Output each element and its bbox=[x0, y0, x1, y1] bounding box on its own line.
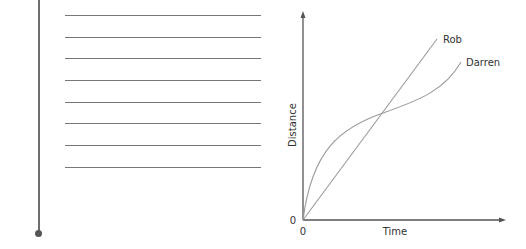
y-axis-arrow-icon bbox=[301, 11, 306, 18]
series-darren-line bbox=[303, 62, 461, 220]
series-rob-line bbox=[303, 39, 437, 220]
distance-time-graph: Rob Darren Distance Time 0 0 bbox=[0, 0, 526, 249]
x-axis-label: Time bbox=[382, 226, 407, 237]
x-axis-arrow-icon bbox=[499, 218, 506, 223]
legend-darren: Darren bbox=[466, 57, 500, 68]
y-tick-zero: 0 bbox=[290, 215, 296, 226]
legend-rob: Rob bbox=[443, 34, 462, 45]
x-tick-zero: 0 bbox=[300, 226, 306, 237]
y-axis-label: Distance bbox=[287, 103, 298, 147]
